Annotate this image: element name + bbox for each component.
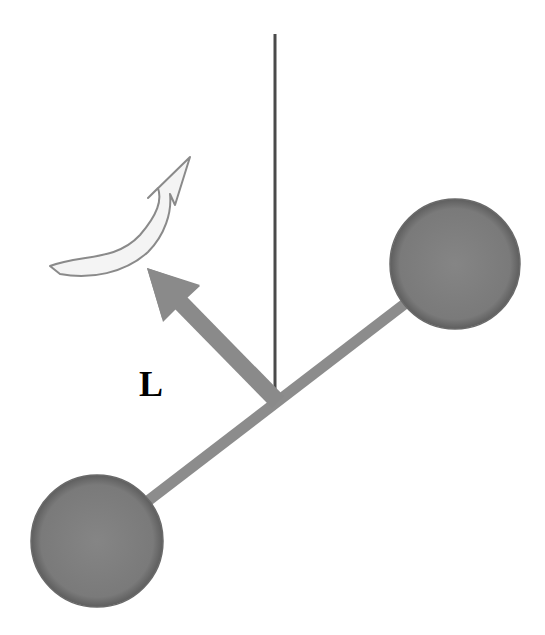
dumbbell-diagram (0, 0, 545, 635)
angular-momentum-label: L (139, 366, 163, 402)
mass-bottom-left (31, 475, 163, 607)
rotation-arrow-icon (50, 157, 190, 276)
mass-top-right (390, 199, 520, 329)
angular-momentum-arrow (147, 268, 278, 402)
